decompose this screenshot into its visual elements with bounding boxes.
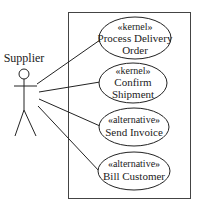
actor-label: Supplier	[4, 51, 45, 65]
use-case-label: Process Delivery	[98, 32, 173, 44]
use-case-stereotype: «kernel»	[116, 65, 151, 76]
use-case-confirm-shipment[interactable]: «kernel» Confirm Shipment	[99, 63, 167, 103]
use-case-label: Order	[122, 44, 148, 56]
use-case-label: Send Invoice	[105, 126, 163, 138]
use-case-send-invoice[interactable]: «alternative» Send Invoice	[99, 108, 169, 146]
use-case-label: Shipment	[112, 88, 154, 100]
association-line-2	[39, 82, 100, 92]
use-case-bill-customer[interactable]: «alternative» Bill Customer	[98, 152, 170, 190]
association-line-3	[39, 99, 100, 126]
use-case-stereotype: «kernel»	[118, 21, 153, 32]
use-case-label: Confirm	[114, 76, 152, 88]
use-case-stereotype: «alternative»	[108, 158, 160, 169]
actor-supplier	[14, 69, 37, 136]
use-case-diagram: Supplier «kernel» Process Delivery Order…	[0, 0, 201, 211]
actor-right-leg	[24, 110, 36, 136]
use-case-label: Bill Customer	[103, 170, 165, 182]
actor-left-leg	[15, 110, 24, 136]
actor-head	[19, 69, 29, 79]
use-case-stereotype: «alternative»	[108, 114, 160, 125]
use-case-process-delivery-order[interactable]: «kernel» Process Delivery Order	[98, 17, 173, 59]
